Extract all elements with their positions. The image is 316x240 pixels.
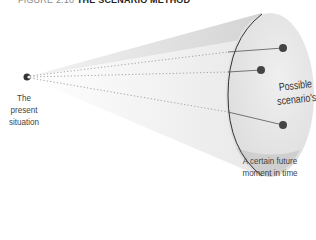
scenario-dot-2 (257, 66, 265, 74)
present-situation-label: The present situation (4, 92, 45, 128)
scenario-dot-3 (279, 121, 287, 129)
future-label-line2: moment in time (231, 167, 309, 179)
present-label-line1: The present (4, 92, 45, 116)
future-label-line1: A certain future (231, 155, 309, 167)
future-moment-label: A certain future moment in time (231, 155, 309, 179)
present-label-line2: situation (4, 116, 45, 128)
scenario-dot-1 (279, 44, 287, 52)
possible-scenarios-label: Possible scenario's (271, 76, 316, 109)
